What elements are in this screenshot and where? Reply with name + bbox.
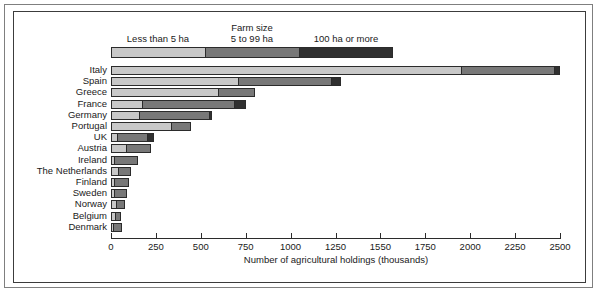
bar-segment	[142, 101, 234, 108]
x-axis-tick	[336, 233, 337, 238]
category-label: Portugal	[72, 121, 107, 131]
bar-segment	[171, 123, 190, 130]
stacked-bar	[111, 100, 246, 109]
stacked-bar	[111, 167, 131, 176]
bar-segment	[118, 168, 130, 175]
category-label: Denmark	[68, 222, 107, 232]
x-axis-tick	[560, 233, 561, 238]
category-label: Ireland	[78, 155, 107, 165]
x-axis-tick-label: 750	[238, 241, 254, 252]
stacked-bar	[111, 189, 127, 198]
category-label: UK	[94, 132, 107, 142]
bar-segment	[218, 89, 253, 96]
category-label: Finland	[76, 177, 107, 187]
x-axis-tick	[470, 233, 471, 238]
bar-segment	[117, 134, 147, 141]
chart-legend: Farm size Less than 5 ha 5 to 99 ha 100 …	[111, 22, 393, 60]
stacked-bar	[111, 122, 191, 131]
x-axis-tick	[201, 233, 202, 238]
category-label: Norway	[75, 199, 107, 209]
x-axis-tick-label: 1550	[370, 241, 391, 252]
stacked-bar	[111, 200, 125, 209]
bar-segment	[114, 179, 128, 186]
stacked-bar	[111, 133, 154, 142]
bar-segment	[209, 112, 212, 119]
stacked-bar	[111, 178, 129, 187]
bar-segment	[234, 101, 245, 108]
x-axis-tick-label: 1250	[325, 241, 346, 252]
bar-segment	[461, 67, 554, 74]
bar-segment	[126, 145, 149, 152]
figure-root: Farm size Less than 5 ha 5 to 99 ha 100 …	[0, 0, 599, 294]
x-axis-tick-label: 2500	[549, 241, 570, 252]
legend-label-less-than-5-ha: Less than 5 ha	[111, 33, 205, 45]
stacked-bar	[111, 144, 151, 153]
x-axis-tick	[380, 233, 381, 238]
category-label: Austria	[77, 143, 107, 153]
x-axis-tick-label: 250	[148, 241, 164, 252]
x-axis-tick-label: 1000	[280, 241, 301, 252]
legend-swatch-100-ha-or-more	[299, 48, 392, 57]
bar-segment	[116, 201, 125, 208]
stacked-bar	[111, 111, 212, 120]
x-axis-line	[111, 238, 561, 239]
bar-segment	[112, 123, 171, 130]
bar-segment	[147, 134, 153, 141]
bar-segment	[331, 78, 340, 85]
legend-swatch-5-to-99-ha	[205, 48, 298, 57]
x-axis-tick-label: 2000	[460, 241, 481, 252]
category-label: Spain	[83, 76, 107, 86]
bar-segment	[112, 112, 139, 119]
bar-segment	[112, 145, 126, 152]
category-label: Sweden	[73, 188, 107, 198]
bar-segment	[114, 190, 127, 197]
x-axis-tick-label: 1750	[415, 241, 436, 252]
legend-label-100-ha-or-more: 100 ha or more	[299, 33, 393, 45]
category-label: Italy	[90, 65, 107, 75]
x-axis-tick-label: 0	[108, 241, 113, 252]
x-axis-tick	[156, 233, 157, 238]
x-axis-tick-label: 500	[193, 241, 209, 252]
legend-label-row: Less than 5 ha 5 to 99 ha 100 ha or more	[111, 33, 393, 45]
stacked-bar	[111, 66, 560, 75]
bar-segment	[112, 67, 461, 74]
category-label: The Netherlands	[37, 166, 107, 176]
legend-label-5-to-99-ha: 5 to 99 ha	[205, 33, 299, 45]
bar-segment	[115, 213, 120, 220]
x-axis-title: Number of agricultural holdings (thousan…	[111, 254, 561, 265]
legend-swatch-bar	[111, 47, 393, 58]
stacked-bar	[111, 88, 255, 97]
bar-segment	[554, 67, 559, 74]
plot-area: ItalySpainGreeceFranceGermanyPortugalUKA…	[111, 66, 560, 234]
bar-segment	[113, 224, 121, 231]
bar-segment	[114, 157, 136, 164]
bar-segment	[238, 78, 331, 85]
stacked-bar	[111, 156, 138, 165]
legend-swatch-less-than-5-ha	[112, 48, 205, 57]
category-label: Germany	[68, 110, 107, 120]
category-label: Greece	[76, 87, 107, 97]
bar-segment	[112, 101, 142, 108]
stacked-bar	[111, 77, 341, 86]
stacked-bar	[111, 212, 121, 221]
bar-segment	[112, 78, 238, 85]
x-axis-tick	[111, 233, 112, 238]
x-axis-tick	[515, 233, 516, 238]
stacked-bar	[111, 223, 122, 232]
category-label: Belgium	[73, 211, 107, 221]
category-label: France	[77, 99, 107, 109]
x-axis-tick	[425, 233, 426, 238]
bar-segment	[112, 89, 218, 96]
bar-segment	[139, 112, 209, 119]
x-axis-tick	[246, 233, 247, 238]
x-axis-tick	[291, 233, 292, 238]
x-axis-tick-label: 2250	[505, 241, 526, 252]
legend-title: Farm size	[111, 22, 393, 33]
